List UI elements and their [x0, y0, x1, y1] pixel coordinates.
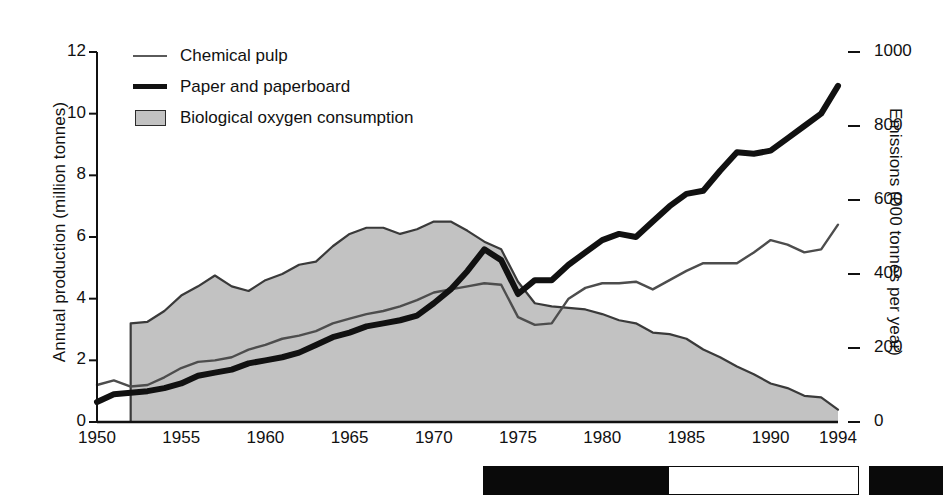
- thin-line-swatch-icon: [131, 51, 169, 61]
- x-axis-tick-label: 1955: [162, 428, 200, 448]
- artifact-block-white: [668, 466, 859, 495]
- y-axis-left-tick-labels: 024681012: [0, 0, 86, 495]
- legend-item-paper-and-paperboard: Paper and paperboard: [131, 71, 413, 102]
- legend-item-biological-oxygen-consumption: Biological oxygen consumption: [131, 102, 413, 133]
- x-axis-tick-label: 1975: [499, 428, 537, 448]
- x-axis-tick-label: 1970: [415, 428, 453, 448]
- artifact-block-left: [483, 466, 668, 495]
- chart-figure: 024681012 02004006008001000 195019551960…: [0, 0, 943, 495]
- legend-item-chemical-pulp: Chemical pulp: [131, 40, 413, 71]
- x-axis-tick-label: 1965: [331, 428, 369, 448]
- x-axis-tick-label: 1990: [752, 428, 790, 448]
- area-swatch-icon: [131, 109, 169, 127]
- legend-label-biological-oxygen-consumption: Biological oxygen consumption: [180, 108, 413, 128]
- thick-line-swatch-icon: [131, 82, 169, 92]
- page-edge-artifact-strip: [0, 466, 943, 495]
- x-axis-tick-label: 1980: [583, 428, 621, 448]
- x-axis-tick-label: 1985: [668, 428, 706, 448]
- x-axis-tick-label: 1960: [246, 428, 284, 448]
- y-axis-right-title: Emissions (000 tonnes per year): [885, 22, 905, 442]
- x-axis-tick-label: 1994: [819, 428, 857, 448]
- chart-legend: Chemical pulp Paper and paperboard Biolo…: [131, 40, 413, 133]
- artifact-block-right: [869, 466, 943, 495]
- x-axis-tick-labels: 1950195519601965197019751980198519901994: [0, 428, 943, 458]
- x-axis-tick-label: 1950: [78, 428, 116, 448]
- legend-label-paper-and-paperboard: Paper and paperboard: [180, 77, 350, 97]
- y-axis-left-title: Annual production (million tonnes): [50, 22, 70, 442]
- legend-label-chemical-pulp: Chemical pulp: [180, 46, 288, 66]
